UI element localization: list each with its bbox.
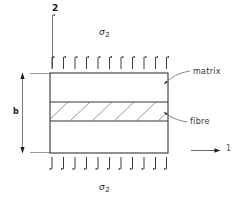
axis-horizontal-1 <box>191 148 220 152</box>
sigma-glyph-bottom: σ <box>99 182 105 192</box>
load-label-top: σ2 <box>99 28 110 39</box>
dimension-b <box>20 73 50 154</box>
callout-label-matrix: matrix <box>193 68 221 76</box>
load-arrows-top <box>52 57 167 69</box>
sigma-subscript-bottom: 2 <box>105 186 110 194</box>
composite-block <box>50 73 168 153</box>
axis-label-2: 2 <box>52 4 58 13</box>
axis-label-1: 1 <box>226 145 231 153</box>
sigma-subscript-top: 2 <box>105 31 110 39</box>
figure-canvas: 2 1 σ2 σ2 b matrix fibre <box>0 0 235 204</box>
callout-label-fibre: fibre <box>190 118 210 126</box>
load-arrows-bottom <box>52 157 167 169</box>
load-label-bottom: σ2 <box>99 183 110 194</box>
diagram-vector-layer <box>0 0 235 204</box>
sigma-glyph-top: σ <box>99 27 105 37</box>
block-outline <box>50 73 168 153</box>
dimension-label-b: b <box>13 108 19 116</box>
